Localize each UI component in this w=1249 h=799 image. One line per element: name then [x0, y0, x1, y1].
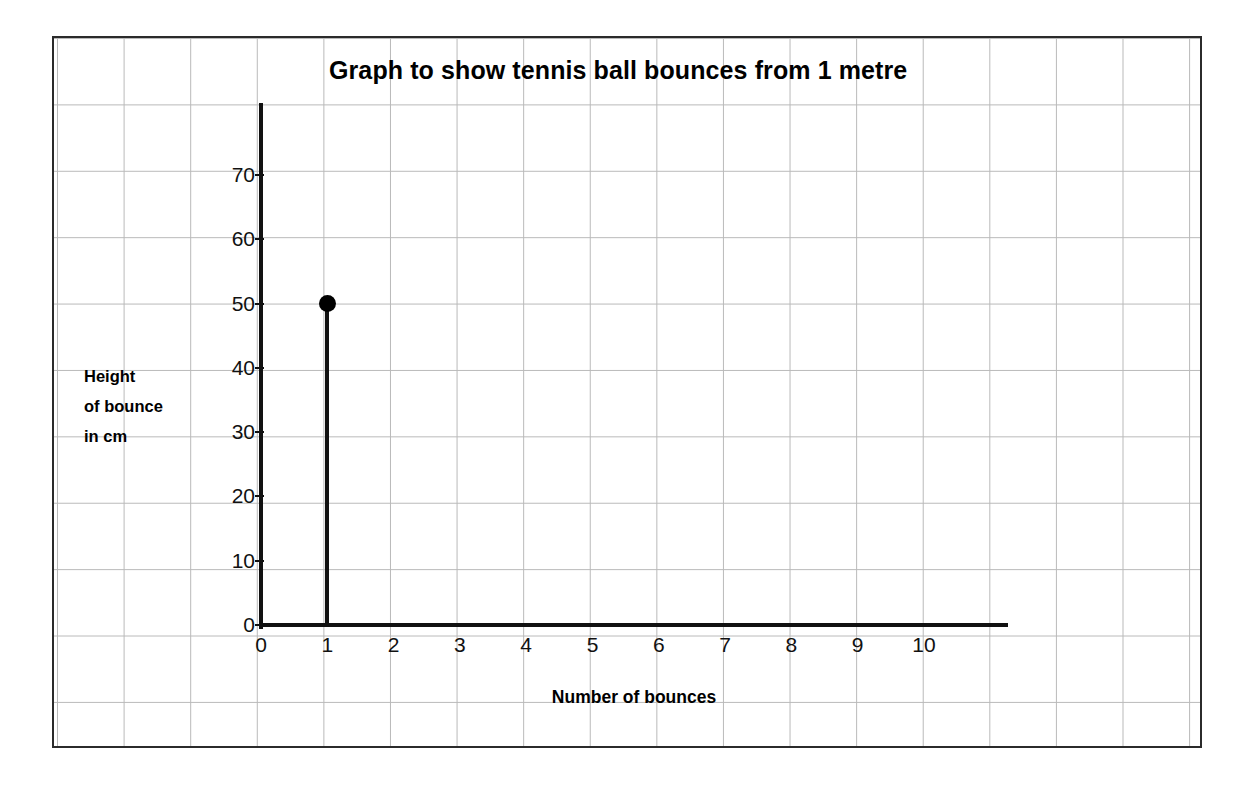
y-tick-label: 10	[209, 549, 255, 573]
x-tick-label: 4	[506, 633, 546, 657]
y-tick-label: 30	[209, 420, 255, 444]
y-axis-label: Height of bounce in cm	[84, 361, 163, 451]
x-tick-label: 10	[904, 633, 944, 657]
y-tick-mark	[255, 560, 264, 562]
x-tick-label: 9	[838, 633, 878, 657]
y-axis-label-line-3: in cm	[84, 421, 163, 451]
y-tick-mark	[255, 624, 264, 626]
y-tick-mark	[255, 303, 264, 305]
data-point-stem	[325, 304, 329, 626]
x-tick-label: 0	[241, 633, 281, 657]
y-axis-label-line-1: Height	[84, 361, 163, 391]
y-axis-label-line-2: of bounce	[84, 391, 163, 421]
chart-title: Graph to show tennis ball bounces from 1…	[329, 56, 907, 85]
x-tick-label: 3	[440, 633, 480, 657]
squared-paper-grid	[52, 36, 1202, 748]
x-tick-label: 1	[307, 633, 347, 657]
y-tick-label: 40	[209, 356, 255, 380]
y-tick-mark	[255, 367, 264, 369]
x-tick-label: 7	[705, 633, 745, 657]
y-tick-mark	[255, 238, 264, 240]
chart-frame: Graph to show tennis ball bounces from 1…	[52, 36, 1202, 748]
y-tick-label: 60	[209, 227, 255, 251]
data-point-marker	[319, 295, 336, 312]
x-tick-label: 2	[374, 633, 414, 657]
y-tick-label: 50	[209, 292, 255, 316]
x-tick-label: 6	[639, 633, 679, 657]
y-tick-mark	[255, 431, 264, 433]
y-tick-label: 70	[209, 163, 255, 187]
y-tick-mark	[255, 174, 264, 176]
y-tick-mark	[255, 495, 264, 497]
x-tick-label: 5	[573, 633, 613, 657]
chart-page: Graph to show tennis ball bounces from 1…	[0, 0, 1249, 799]
x-tick-label: 8	[771, 633, 811, 657]
y-tick-label: 20	[209, 484, 255, 508]
x-axis-line	[259, 623, 1008, 627]
x-axis-label: Number of bounces	[259, 687, 1009, 708]
